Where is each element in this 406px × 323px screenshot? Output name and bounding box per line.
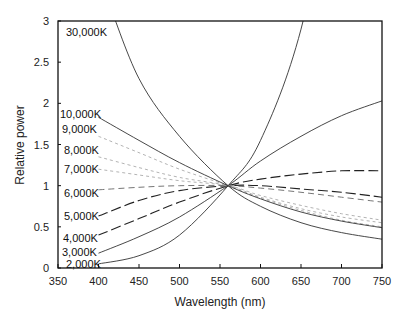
series-label-2000k: 2,000K bbox=[66, 258, 102, 270]
y-tick-label: 0 bbox=[43, 262, 49, 274]
series-line-3000k bbox=[99, 101, 383, 253]
x-tick-label: 550 bbox=[211, 275, 229, 287]
x-tick-label: 500 bbox=[170, 275, 188, 287]
series-label-9000k: 9,000K bbox=[62, 123, 98, 135]
series-label-6000k: 6,000K bbox=[64, 187, 100, 199]
series-label-10000k: 10,000K bbox=[60, 108, 102, 120]
series-labels: 2,000K3,000K4,000K5,000K6,000K7,000K8,00… bbox=[60, 26, 108, 270]
y-tick-label: 0.5 bbox=[34, 221, 49, 233]
y-tick-label: 1.5 bbox=[34, 139, 49, 151]
series-label-5000k: 5,000K bbox=[64, 210, 100, 222]
series-line-30000k bbox=[107, 0, 382, 239]
series-label-8000k: 8,000K bbox=[64, 144, 100, 156]
series-label-30000k: 30,000K bbox=[66, 26, 108, 38]
y-tick-label: 2 bbox=[43, 97, 49, 109]
x-tick-label: 650 bbox=[292, 275, 310, 287]
x-axis-title: Wavelength (nm) bbox=[175, 295, 266, 309]
y-tick-label: 3 bbox=[43, 15, 49, 27]
series-line-9000k bbox=[99, 136, 383, 227]
y-axis-title: Relative power bbox=[13, 105, 27, 184]
x-tick-label: 750 bbox=[373, 275, 391, 287]
x-tick-label: 450 bbox=[130, 275, 148, 287]
x-tick-label: 350 bbox=[49, 275, 67, 287]
x-tick-label: 600 bbox=[251, 275, 269, 287]
series-line-4000k bbox=[99, 171, 383, 236]
series-label-4000k: 4,000K bbox=[63, 232, 99, 244]
y-tick-label: 1 bbox=[43, 180, 49, 192]
series-line-8000k bbox=[99, 157, 383, 223]
series-lines bbox=[99, 0, 383, 264]
x-tick-label: 700 bbox=[332, 275, 350, 287]
series-label-7000k: 7,000K bbox=[64, 163, 100, 175]
x-tick-label: 400 bbox=[89, 275, 107, 287]
series-label-3000k: 3,000K bbox=[62, 246, 98, 258]
series-line-2000k bbox=[99, 0, 383, 264]
y-tick-label: 2.5 bbox=[34, 56, 49, 68]
relative-power-chart: 35040045050055060065070075000.511.522.53… bbox=[0, 0, 406, 323]
